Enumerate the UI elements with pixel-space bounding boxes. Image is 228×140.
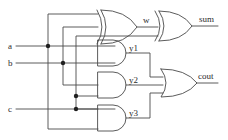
label-input-c: c [8, 104, 12, 114]
label-input-a: a [8, 41, 12, 51]
logic-circuit-diagram: a b c w y1 y2 y3 sum cout [0, 0, 228, 140]
wire-a-to-and3 [48, 46, 98, 129]
gate-and2 [98, 72, 126, 98]
label-output-cout: cout [198, 71, 214, 81]
label-net-y1: y1 [129, 43, 138, 53]
label-net-w: w [143, 15, 150, 25]
circuit-canvas: a b c w y1 y2 y3 sum cout [0, 0, 228, 140]
junction-dot-b [61, 61, 65, 65]
or1-body [161, 69, 197, 97]
wire-b-to-xor1 [63, 27, 98, 63]
gate-xor2 [155, 11, 192, 41]
junction-dot-c-upper [74, 94, 78, 98]
label-net-y2: y2 [129, 75, 138, 85]
gate-xor1 [97, 10, 137, 44]
junction-dot-c-lower [74, 107, 78, 111]
wire-y1-to-or1 [126, 53, 163, 77]
label-net-y3: y3 [129, 108, 139, 118]
label-output-sum: sum [199, 14, 214, 24]
xor2-back-arc [155, 11, 160, 41]
and2-body [98, 72, 126, 98]
junction-dot-a [46, 44, 50, 48]
wire-a-to-xor1 [48, 14, 98, 46]
label-input-b: b [8, 58, 13, 68]
wire-b-to-and2 [63, 63, 98, 85]
gate-or1 [161, 69, 197, 97]
